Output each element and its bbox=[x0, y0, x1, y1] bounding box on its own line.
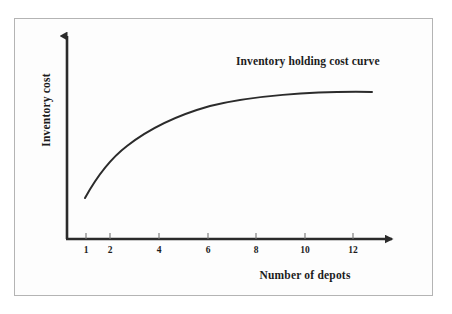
chart-figure: Inventory cost Number of depots Inventor… bbox=[0, 0, 452, 314]
x-tick-label: 4 bbox=[149, 245, 169, 255]
x-tick-label: 8 bbox=[246, 245, 266, 255]
y-axis-title: Inventory cost bbox=[40, 60, 52, 160]
curve-annotation-label: Inventory holding cost curve bbox=[236, 55, 380, 67]
x-tick-label: 6 bbox=[198, 245, 218, 255]
x-tick-label: 12 bbox=[343, 245, 363, 255]
x-axis-title: Number of depots bbox=[232, 269, 378, 281]
inventory-holding-cost-curve bbox=[85, 92, 372, 198]
x-tick-label: 2 bbox=[100, 245, 120, 255]
chart-plot-area bbox=[0, 0, 452, 314]
x-tick-label: 1 bbox=[76, 245, 96, 255]
x-tick-label: 10 bbox=[295, 245, 315, 255]
